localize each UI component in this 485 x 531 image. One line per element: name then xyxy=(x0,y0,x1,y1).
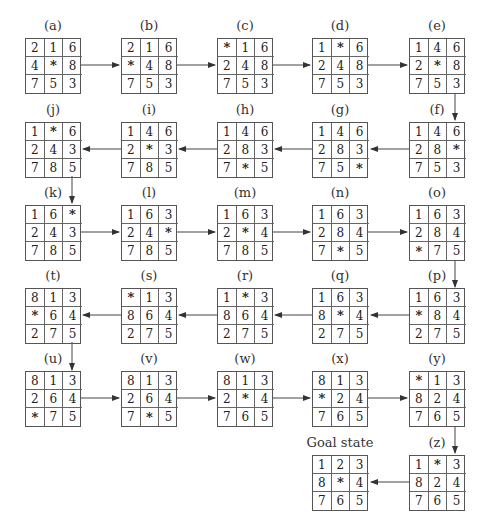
tile: 5 xyxy=(237,75,256,93)
tile: 8 xyxy=(410,474,429,492)
tile: 8 xyxy=(63,57,82,75)
state-label: (r) xyxy=(217,268,273,283)
tile: 6 xyxy=(350,123,369,141)
tile: 7 xyxy=(410,75,429,93)
tile: 8 xyxy=(429,141,448,159)
tile: 2 xyxy=(313,224,332,242)
tile: 5 xyxy=(159,408,178,426)
tile: 6 xyxy=(429,408,448,426)
tile: 7 xyxy=(122,242,141,260)
tile: 3 xyxy=(350,141,369,159)
tile: 2 xyxy=(26,39,45,57)
tile: 8 xyxy=(141,159,160,177)
tile: 5 xyxy=(255,242,274,260)
puzzle-grid: 1 * 6 2 4 3 7 8 5 xyxy=(25,122,81,178)
tile: 5 xyxy=(447,408,466,426)
state-p: (p) 1 6 3 * 8 4 2 7 5 xyxy=(409,288,465,344)
tile: 3 xyxy=(447,289,466,307)
puzzle-grid: 1 6 3 8 * 4 2 7 5 xyxy=(312,288,368,344)
tile: 2 xyxy=(332,456,351,474)
state-label: (h) xyxy=(217,102,273,117)
tile: 4 xyxy=(350,390,369,408)
state-label: (n) xyxy=(312,185,368,200)
state-label: (a) xyxy=(25,18,81,33)
blank-tile: * xyxy=(429,456,448,474)
tile: 1 xyxy=(313,39,332,57)
state-label: (l) xyxy=(121,185,177,200)
tile: 1 xyxy=(218,123,237,141)
tile: 4 xyxy=(350,224,369,242)
state-label: (t) xyxy=(25,268,81,283)
state-b: (b) 2 1 6 * 4 8 7 5 3 xyxy=(121,38,177,94)
state-label: (w) xyxy=(217,351,273,366)
tile: 6 xyxy=(159,39,178,57)
state-k: (k) 1 6 * 2 4 3 7 8 5 xyxy=(25,205,81,261)
tile: 8 xyxy=(45,242,64,260)
tile: 3 xyxy=(350,206,369,224)
tile: 1 xyxy=(237,372,256,390)
tile: 4 xyxy=(350,307,369,325)
tile: 8 xyxy=(26,372,45,390)
tile: 5 xyxy=(63,242,82,260)
tile: 4 xyxy=(141,123,160,141)
tile: 6 xyxy=(237,408,256,426)
tile: 1 xyxy=(410,206,429,224)
state-q: (q) 1 6 3 8 * 4 2 7 5 xyxy=(312,288,368,344)
tile: 8 xyxy=(410,390,429,408)
tile: 7 xyxy=(45,408,64,426)
tile: 2 xyxy=(218,390,237,408)
tile: 8 xyxy=(141,242,160,260)
tile: 5 xyxy=(63,325,82,343)
blank-tile: * xyxy=(141,141,160,159)
state-o: (o) 1 6 3 2 8 4 * 7 5 xyxy=(409,205,465,261)
state-l: (l) 1 6 3 2 4 * 7 8 5 xyxy=(121,205,177,261)
tile: 4 xyxy=(255,390,274,408)
tile: 6 xyxy=(332,408,351,426)
tile: 1 xyxy=(122,123,141,141)
puzzle-grid: 1 6 * 2 4 3 7 8 5 xyxy=(25,205,81,261)
state-n: (n) 1 6 3 2 8 4 7 * 5 xyxy=(312,205,368,261)
tile: 8 xyxy=(350,57,369,75)
puzzle-grid: 1 4 6 2 8 3 7 * 5 xyxy=(217,122,273,178)
tile: 5 xyxy=(255,159,274,177)
tile: 6 xyxy=(255,39,274,57)
state-label: (f) xyxy=(409,102,465,117)
tile: 4 xyxy=(350,474,369,492)
tile: 3 xyxy=(159,289,178,307)
tile: 1 xyxy=(141,39,160,57)
tile: 6 xyxy=(45,390,64,408)
tile: 2 xyxy=(26,224,45,242)
tile: 2 xyxy=(122,224,141,242)
tile: 3 xyxy=(255,289,274,307)
tile: 3 xyxy=(159,75,178,93)
blank-tile: * xyxy=(237,390,256,408)
tile: 1 xyxy=(26,123,45,141)
tile: 7 xyxy=(313,492,332,510)
tile: 6 xyxy=(141,390,160,408)
tile: 5 xyxy=(350,408,369,426)
tile: 7 xyxy=(313,242,332,260)
puzzle-grid: 8 1 3 2 6 4 7 * 5 xyxy=(121,371,177,427)
tile: 6 xyxy=(63,39,82,57)
tile: 5 xyxy=(447,242,466,260)
tile: 4 xyxy=(237,123,256,141)
tile: 7 xyxy=(332,325,351,343)
tile: 7 xyxy=(313,408,332,426)
puzzle-grid: 1 4 6 2 8 3 7 5 * xyxy=(312,122,368,178)
blank-tile: * xyxy=(447,141,466,159)
tile: 4 xyxy=(332,123,351,141)
puzzle-grid: 8 1 3 * 2 4 7 6 5 xyxy=(312,371,368,427)
blank-tile: * xyxy=(350,159,369,177)
state-label: (y) xyxy=(409,351,465,366)
tile: 2 xyxy=(410,57,429,75)
tile: 7 xyxy=(237,325,256,343)
state-label: (i) xyxy=(121,102,177,117)
tile: 4 xyxy=(141,57,160,75)
blank-tile: * xyxy=(410,307,429,325)
state-goal: Goal state 1 2 3 8 * 4 7 6 5 xyxy=(312,455,368,511)
tile: 8 xyxy=(447,57,466,75)
tile: 2 xyxy=(122,390,141,408)
tile: 3 xyxy=(63,372,82,390)
tile: 5 xyxy=(141,75,160,93)
tile: 3 xyxy=(350,372,369,390)
